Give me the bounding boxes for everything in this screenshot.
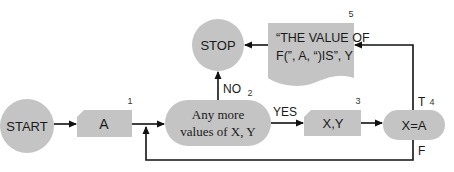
output-number: 5 xyxy=(348,9,353,19)
start-label: START xyxy=(6,119,47,134)
no-label: NO xyxy=(223,82,241,96)
input-xy-number: 3 xyxy=(355,96,360,106)
input-a-label: A xyxy=(99,116,109,132)
start-node: START xyxy=(0,99,54,153)
input-xy-label: X,Y xyxy=(323,116,344,131)
stop-label: STOP xyxy=(200,38,235,53)
decision-line2: values of X, Y xyxy=(180,124,256,139)
output-line1: “THE VALUE OF xyxy=(276,31,370,45)
false-label: F xyxy=(418,144,425,158)
true-label: T xyxy=(418,95,426,109)
test-number: 4 xyxy=(429,97,434,107)
output-line2: F(”, A, “)IS”, Y xyxy=(276,49,354,63)
input-xy-node: X,Y 3 xyxy=(304,96,361,136)
test-node: X=A 4 xyxy=(383,97,445,140)
yes-label: YES xyxy=(273,105,297,119)
output-node: “THE VALUE OF F(”, A, “)IS”, Y 5 xyxy=(268,9,370,86)
input-a-number: 1 xyxy=(127,96,132,106)
edge-true-to-output xyxy=(355,45,413,110)
input-a-node: A 1 xyxy=(77,96,133,137)
flowchart: START A 1 Any more values of X, Y 2 NO S… xyxy=(0,0,454,172)
test-label: X=A xyxy=(402,118,427,133)
decision-number: 2 xyxy=(247,88,252,98)
stop-node: STOP xyxy=(192,19,244,71)
decision-line1: Any more xyxy=(192,107,245,122)
